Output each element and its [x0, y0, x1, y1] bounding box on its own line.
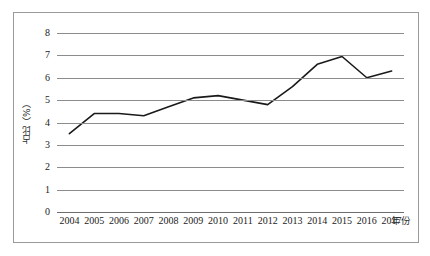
x-tick-label-2016: 2016 [357, 216, 377, 226]
gridline-y-8 [57, 33, 404, 34]
y-tick-label-5: 5 [45, 95, 50, 105]
gridline-y-1 [57, 190, 404, 191]
x-tick-label-2015: 2015 [332, 216, 352, 226]
gridline-y-3 [57, 145, 404, 146]
x-tick-label-2006: 2006 [109, 216, 129, 226]
x-tick-label-2004: 2004 [59, 216, 79, 226]
x-tick-label-2013: 2013 [282, 216, 302, 226]
x-axis-tick-labels: 2004200520062007200820092010201120122013… [57, 216, 404, 232]
x-tick-label-2011: 2011 [233, 216, 253, 226]
x-axis-line [57, 212, 404, 213]
y-tick-label-2: 2 [45, 162, 50, 172]
x-tick-label-2010: 2010 [208, 216, 228, 226]
y-tick-label-4: 4 [45, 118, 50, 128]
x-tick-label-2008: 2008 [159, 216, 179, 226]
y-tick-label-1: 1 [45, 185, 50, 195]
y-tick-label-8: 8 [45, 28, 50, 38]
x-axis-title: 年份 [391, 216, 411, 226]
plot-area: 012345678 [57, 33, 404, 212]
gridline-y-4 [57, 123, 404, 124]
y-tick-label-3: 3 [45, 140, 50, 150]
x-tick-label-2005: 2005 [84, 216, 104, 226]
x-tick-label-2007: 2007 [134, 216, 154, 226]
gridline-y-2 [57, 167, 404, 168]
y-tick-label-7: 7 [45, 50, 50, 60]
y-tick-label-6: 6 [45, 73, 50, 83]
x-tick-label-2012: 2012 [258, 216, 278, 226]
x-tick-label-2014: 2014 [307, 216, 327, 226]
y-axis-title: 占比（%） [18, 86, 34, 158]
chart-figure: 占比（%） 012345678 200420052006200720082009… [0, 0, 430, 256]
gridline-y-5 [57, 100, 404, 101]
x-tick-label-2009: 2009 [183, 216, 203, 226]
gridline-y-6 [57, 78, 404, 79]
gridline-y-7 [57, 55, 404, 56]
y-tick-label-0: 0 [45, 207, 50, 217]
